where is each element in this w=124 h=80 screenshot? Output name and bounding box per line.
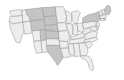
state-AR[interactable]: Arkansas [60, 41, 69, 48]
state-KS[interactable]: Kansas [46, 31, 60, 40]
state-MO[interactable]: Missouri [59, 31, 70, 42]
us-map-svg: Washington Oregon California Nevada Idah… [0, 0, 124, 80]
state-CT[interactable]: Connecticut [100, 19, 104, 21]
state-UT[interactable]: Utah [32, 30, 41, 41]
state-WY[interactable]: Wyoming [31, 20, 46, 31]
state-ND[interactable]: North Dakota [43, 7, 56, 17]
state-OK[interactable]: Oklahoma [46, 39, 60, 46]
us-map-figure: Washington Oregon California Nevada Idah… [0, 0, 124, 80]
state-SD[interactable]: South Dakota [44, 16, 57, 26]
state-IA[interactable]: Iowa [57, 23, 67, 32]
